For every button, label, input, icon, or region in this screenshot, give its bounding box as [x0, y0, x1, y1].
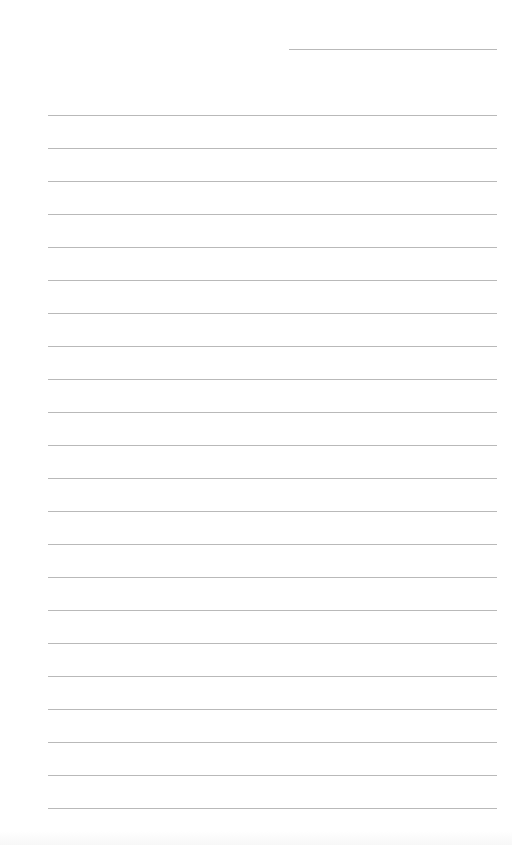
lined-page: [0, 0, 512, 845]
ruled-line: [48, 775, 497, 776]
bottom-edge: [0, 831, 512, 845]
ruled-line: [48, 181, 497, 182]
ruled-line: [48, 313, 497, 314]
ruled-line: [48, 709, 497, 710]
ruled-line: [48, 412, 497, 413]
ruled-line: [48, 808, 497, 809]
ruled-lines: [48, 0, 497, 845]
ruled-line: [48, 742, 497, 743]
ruled-line: [48, 148, 497, 149]
ruled-line: [48, 643, 497, 644]
ruled-line: [48, 214, 497, 215]
ruled-line: [48, 280, 497, 281]
ruled-line: [48, 676, 497, 677]
ruled-line: [48, 247, 497, 248]
ruled-line: [48, 346, 497, 347]
ruled-line: [48, 610, 497, 611]
ruled-line: [48, 478, 497, 479]
ruled-line: [48, 115, 497, 116]
ruled-line: [48, 577, 497, 578]
ruled-line: [48, 544, 497, 545]
ruled-line: [48, 379, 497, 380]
ruled-line: [48, 511, 497, 512]
ruled-line: [48, 445, 497, 446]
